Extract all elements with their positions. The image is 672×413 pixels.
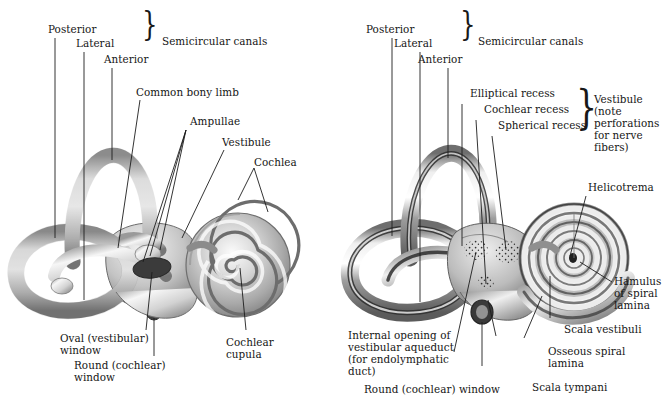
label-scala-tympani: Scala tympani (532, 382, 607, 393)
left-panel: Posterior Lateral Anterior } Semicircula… (0, 0, 336, 413)
label-vestibule-1: Vestibule (594, 94, 643, 105)
label-ampullae: Ampullae (190, 116, 240, 127)
label-anterior: Anterior (418, 54, 462, 65)
label-internal-opening-2: vestibular aqueduct (348, 342, 454, 353)
label-scala-vestibuli: Scala vestibuli (564, 324, 642, 335)
label-cochlea: Cochlea (254, 157, 297, 168)
label-helicotrema: Helicotrema (588, 182, 654, 193)
label-cochlear-cupula-2: cupula (226, 349, 262, 360)
label-semicircular-canals: Semicircular canals (162, 36, 267, 47)
label-hamulus-1: Hamulus (614, 276, 662, 287)
label-hamulus-3: lamina (614, 300, 650, 311)
semicircular-canals-brace: } (142, 6, 158, 40)
label-common-bony-limb: Common bony limb (136, 87, 239, 98)
label-osseous-spiral-lamina-1: Osseous spiral (548, 346, 625, 357)
label-spherical-recess: Spherical recess (498, 120, 586, 131)
label-elliptical-recess: Elliptical recess (470, 88, 555, 99)
label-round-window: Round (cochlear) window (364, 384, 500, 395)
label-hamulus-2: of spiral (614, 288, 658, 299)
spherical-recess-perforations (495, 241, 521, 263)
label-vestibule: Vestibule (222, 137, 271, 148)
label-vestibule-3: perforations (594, 118, 659, 129)
label-cochlear-cupula-1: Cochlear (226, 337, 274, 348)
label-internal-opening-4: duct) (348, 366, 376, 377)
label-lateral: Lateral (76, 38, 114, 49)
label-round-window-2: window (74, 372, 115, 383)
label-cochlear-recess: Cochlear recess (484, 104, 569, 115)
label-vestibule-4: for nerve (594, 130, 643, 141)
label-vestibule-5: fibers) (594, 142, 629, 153)
figure-canvas: Posterior Lateral Anterior } Semicircula… (0, 0, 672, 413)
label-semicircular-canals: Semicircular canals (478, 36, 583, 47)
left-panel-artwork (0, 0, 336, 413)
label-posterior: Posterior (366, 24, 414, 35)
label-vestibule-2: (note (594, 106, 622, 117)
label-internal-opening-3: (for endolymphatic (348, 354, 449, 365)
semicircular-canals-brace: } (460, 6, 476, 40)
label-anterior: Anterior (104, 54, 148, 65)
right-panel: Posterior Lateral Anterior } Semicircula… (336, 0, 672, 413)
label-posterior: Posterior (48, 24, 96, 35)
label-lateral: Lateral (394, 38, 432, 49)
label-osseous-spiral-lamina-2: lamina (548, 358, 584, 369)
left-labyrinth-body (16, 155, 299, 325)
label-internal-opening-1: Internal opening of (348, 330, 450, 341)
label-oval-window-2: window (60, 345, 101, 356)
label-round-window-1: Round (cochlear) (74, 360, 166, 371)
label-oval-window-1: Oval (vestibular) (60, 333, 149, 344)
